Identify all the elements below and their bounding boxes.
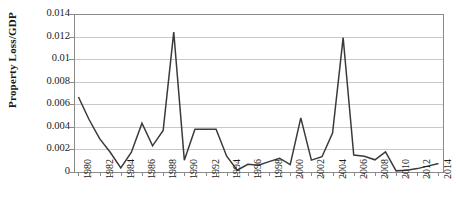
x-axis-tick-mark xyxy=(78,172,79,176)
property-loss-gdp-chart: Property Loss/GDP 00.0020.0040.0060.0080… xyxy=(0,0,456,219)
x-axis-tick-label: 1998 xyxy=(273,159,284,179)
x-axis-tick-label: 2010 xyxy=(400,159,411,179)
x-axis-tick-label: 2008 xyxy=(379,159,390,179)
x-axis-tick-label: 1984 xyxy=(125,159,136,179)
x-axis-tick-mark xyxy=(290,172,291,176)
y-axis-tick-label: 0.014 xyxy=(26,7,70,18)
x-axis-tick-label: 2002 xyxy=(315,159,326,179)
x-axis-tick-label: 2012 xyxy=(421,159,432,179)
x-axis-tick-label: 1996 xyxy=(252,159,263,179)
x-axis-tick-mark xyxy=(227,172,228,176)
x-axis-tick-mark xyxy=(163,172,164,176)
y-axis-tick-label: 0.012 xyxy=(26,30,70,41)
x-axis-tick-mark xyxy=(269,172,270,176)
x-axis-tick-mark xyxy=(142,172,143,176)
x-axis-tick-mark xyxy=(248,172,249,176)
x-axis-tick-label: 2004 xyxy=(337,159,348,179)
x-axis-tick-label: 1988 xyxy=(167,159,178,179)
x-axis-tick-mark xyxy=(417,172,418,176)
x-axis-tick-mark xyxy=(121,172,122,176)
x-axis-tick-label: 1994 xyxy=(231,159,242,179)
x-axis-tick-mark xyxy=(311,172,312,176)
x-axis-tick-mark xyxy=(375,172,376,176)
x-axis-tick-mark xyxy=(396,172,397,176)
plot-right-border xyxy=(443,14,444,173)
x-axis-tick-label: 1982 xyxy=(104,159,115,179)
series-line-property-loss-gdp xyxy=(78,32,438,171)
x-axis-tick-mark xyxy=(184,172,185,176)
y-axis-tick-label: 0.006 xyxy=(26,97,70,108)
y-axis-tick-label: 0.002 xyxy=(26,142,70,153)
x-axis-tick-mark xyxy=(100,172,101,176)
series-line-layer xyxy=(74,14,443,172)
x-axis-tick-label: 1980 xyxy=(82,159,93,179)
y-axis-tick-label: 0.004 xyxy=(26,120,70,131)
y-axis-tick-label: 0.008 xyxy=(26,75,70,86)
x-axis-tick-mark xyxy=(354,172,355,176)
x-axis-tick-label: 1992 xyxy=(210,159,221,179)
y-axis-tick-label: 0.01 xyxy=(26,52,70,63)
x-axis-tick-label: 2000 xyxy=(294,159,305,179)
x-axis-tick-label: 1986 xyxy=(146,159,157,179)
x-axis-tick-label: 1990 xyxy=(188,159,199,179)
x-axis-tick-label: 2014 xyxy=(442,159,453,179)
y-axis-tick-label: 0 xyxy=(26,165,70,176)
x-axis-tick-mark xyxy=(333,172,334,176)
x-axis-tick-label: 2006 xyxy=(358,159,369,179)
x-axis-tick-mark xyxy=(438,172,439,176)
y-axis-title: Property Loss/GDP xyxy=(6,0,22,130)
x-axis-tick-mark xyxy=(206,172,207,176)
